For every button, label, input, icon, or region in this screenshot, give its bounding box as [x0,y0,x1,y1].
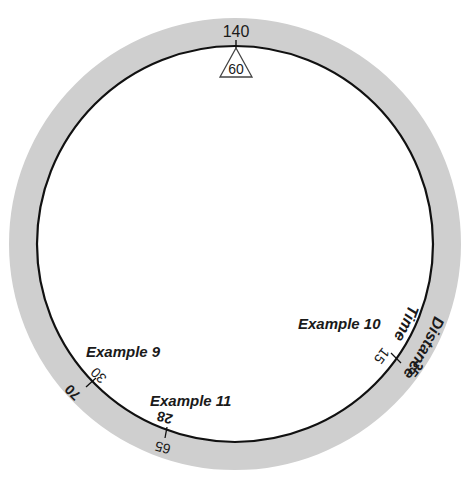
example-11-time-value: 28 [155,408,174,428]
example-11-label: Example 11 [150,392,231,409]
example-10-time-value: 15 [371,345,393,367]
index-time-value: 60 [228,61,244,77]
example-10-label: Example 10 [298,315,381,332]
slide-rule-diagram: 140 60 Distance Time Example 9 30 70 Exa… [0,0,470,479]
example-9-label: Example 9 [86,343,161,360]
distance-scale-band [23,32,447,456]
index-distance-value: 140 [223,23,250,40]
